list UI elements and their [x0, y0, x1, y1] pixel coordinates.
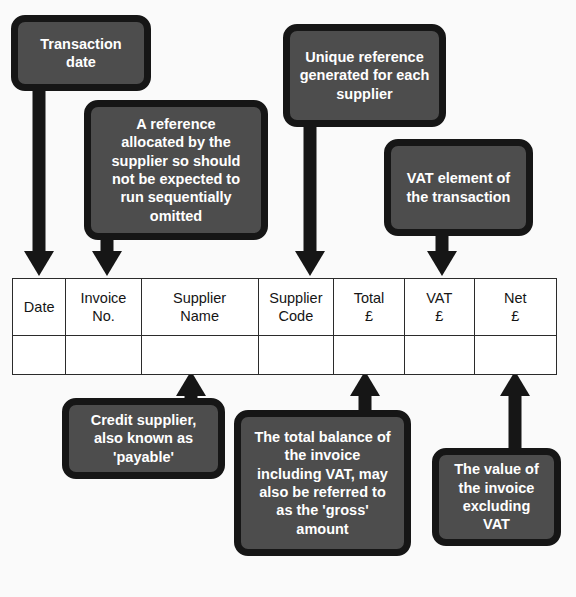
cell-invoice-no[interactable] — [66, 336, 141, 375]
column-header-supplier-code: Supplier Code — [258, 279, 333, 336]
cell-supplier-code[interactable] — [258, 336, 333, 375]
cell-supplier-name[interactable] — [141, 336, 258, 375]
arrow-stem — [304, 120, 317, 252]
table-header-row: Date Invoice No. Supplier Name Supplier … — [13, 279, 557, 336]
column-header-total: Total £ — [334, 279, 405, 336]
arrow-down-supplier-code — [295, 120, 325, 276]
callout-net-value: The value of the invoice excluding VAT — [432, 448, 561, 546]
column-header-net: Net £ — [474, 279, 556, 336]
callout-invoice-reference: A reference allocated by the supplier so… — [84, 100, 268, 240]
arrow-head — [295, 251, 325, 276]
callout-transaction-date: Transaction date — [11, 15, 151, 91]
callout-credit-supplier: Credit supplier, also known as 'payable' — [62, 398, 225, 479]
arrow-down-date — [24, 84, 54, 276]
diagram-canvas: Transaction date A reference allocated b… — [0, 0, 576, 597]
callout-supplier-code: Unique reference generated for each supp… — [283, 24, 446, 127]
arrow-head — [92, 251, 122, 276]
arrow-down-vat — [427, 230, 457, 276]
callout-total-balance: The total balance of the invoice includi… — [234, 410, 411, 556]
column-header-invoice-no: Invoice No. — [66, 279, 141, 336]
cell-net[interactable] — [474, 336, 556, 375]
column-header-vat: VAT £ — [404, 279, 474, 336]
arrow-head — [24, 251, 54, 276]
column-header-date: Date — [13, 279, 66, 336]
callout-vat-element: VAT element of the transaction — [384, 139, 533, 236]
arrow-stem — [33, 84, 46, 252]
column-header-supplier-name: Supplier Name — [141, 279, 258, 336]
arrow-head — [427, 251, 457, 276]
cell-date[interactable] — [13, 336, 66, 375]
cell-total[interactable] — [334, 336, 405, 375]
cell-vat[interactable] — [404, 336, 474, 375]
table-row — [13, 336, 557, 375]
invoice-listing-table: Date Invoice No. Supplier Name Supplier … — [12, 278, 557, 375]
